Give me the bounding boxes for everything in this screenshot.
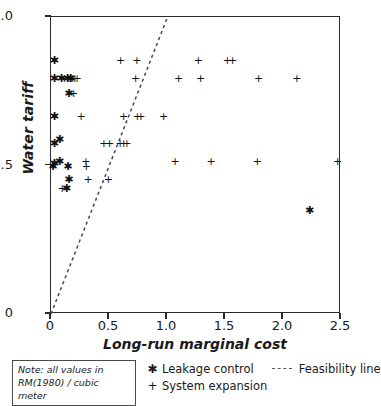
y-tick-label: 1.0 — [0, 8, 13, 23]
legend-label-system-expansion: System expansion — [160, 379, 267, 393]
note-box: Note: all values in RM(1980) / cubic met… — [12, 360, 136, 406]
note-box-line-2: RM(1980) / cubic meter — [18, 377, 130, 403]
x-axis-title: Long-run marginal cost — [50, 336, 340, 352]
note-box-line-1: Note: all values in — [18, 364, 130, 377]
legend-entry-leakage-control: ✱ Leakage control — [145, 362, 254, 376]
y-tick-mark — [45, 164, 51, 165]
legend-row-2: + System expansion — [145, 377, 359, 394]
y-tick-mark — [45, 15, 51, 16]
plus-marker-icon: + — [145, 380, 160, 392]
legend-row-1: ✱ Leakage control Feasibility line — [145, 360, 359, 377]
feasibility-line — [51, 17, 341, 314]
legend-label-leakage-control: Leakage control — [160, 362, 254, 376]
x-tick-label: 1.5 — [214, 318, 235, 333]
y-tick-label: 0.5 — [0, 157, 13, 172]
dashed-line-icon — [272, 368, 292, 369]
chart-legend: ✱ Leakage control Feasibility line + Sys… — [145, 360, 359, 394]
x-tick-label: 1.0 — [156, 318, 177, 333]
legend-entry-system-expansion: + System expansion — [145, 379, 267, 393]
x-tick-label: 2.0 — [272, 318, 293, 333]
x-tick-label: 2.5 — [330, 318, 351, 333]
legend-entry-feasibility-line: Feasibility line — [272, 362, 381, 376]
legend-label-feasibility-line: Feasibility line — [297, 362, 381, 376]
y-tick-label: 0 — [5, 305, 13, 320]
plot-frame: ✱✱✱✱✱✱✱✱✱✱✱✱✱✱✱✱++++++++++++++++++++++++… — [50, 16, 340, 313]
y-tick-mark — [45, 312, 51, 313]
x-tick-label: 0.5 — [98, 318, 119, 333]
y-axis-title: Water tariff — [20, 48, 36, 208]
asterisk-marker-icon: ✱ — [145, 363, 160, 375]
x-tick-label: 0 — [46, 318, 54, 333]
feasibility-line-path — [51, 17, 168, 314]
